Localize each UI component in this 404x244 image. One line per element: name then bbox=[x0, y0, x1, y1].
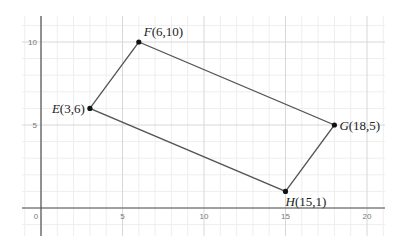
x-tick-label: 15 bbox=[281, 212, 290, 221]
point-e-dot bbox=[87, 106, 92, 111]
x-tick-label: 10 bbox=[200, 212, 209, 221]
points: E(3,6)F(6,10)G(18,5)H(15,1) bbox=[51, 24, 380, 209]
major-grid bbox=[22, 16, 385, 236]
point-f-label: F(6,10) bbox=[143, 24, 183, 39]
coordinate-plane: 05101520510 E(3,6)F(6,10)G(18,5)H(15,1) bbox=[0, 0, 404, 244]
quadrilateral-efgh bbox=[90, 42, 335, 191]
point-f-dot bbox=[136, 39, 141, 44]
point-g-dot bbox=[332, 122, 337, 127]
y-tick-label: 5 bbox=[33, 121, 38, 130]
y-tick-label: 10 bbox=[28, 38, 37, 47]
point-h-dot bbox=[283, 189, 288, 194]
x-tick-label: 20 bbox=[363, 212, 372, 221]
x-tick-label: 5 bbox=[120, 212, 125, 221]
point-g-label: G(18,5) bbox=[339, 118, 380, 133]
point-h-label: H(15,1) bbox=[285, 194, 327, 209]
x-tick-label: 0 bbox=[34, 212, 39, 221]
point-e-label: E(3,6) bbox=[51, 101, 85, 116]
polygon-outline bbox=[90, 42, 335, 191]
